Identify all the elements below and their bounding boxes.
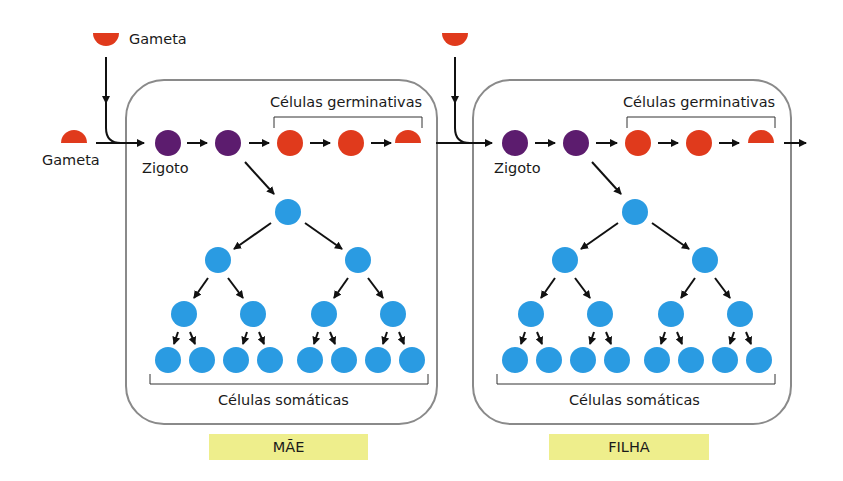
germ-cell xyxy=(338,130,364,156)
gamete-output-icon xyxy=(395,130,421,143)
gamete-output-icon xyxy=(748,130,774,143)
gamete-left-label: Gameta xyxy=(42,152,100,168)
zygote-cell xyxy=(155,130,181,156)
daughter-somatic-tree xyxy=(497,162,775,384)
germ-cells-label-daughter: Células germinativas xyxy=(623,94,775,110)
mother-somatic-tree xyxy=(150,162,428,384)
zygote-cell xyxy=(502,130,528,156)
germ-cells-label-mother: Células germinativas xyxy=(270,94,422,110)
daughter-tag: FILHA xyxy=(549,434,709,460)
somatic-cells-label-mother: Células somáticas xyxy=(218,392,349,408)
gamete-top-label: Gameta xyxy=(129,31,187,47)
diagram-graphics xyxy=(0,0,843,481)
germline-diagram: Gameta Gameta Zigoto Células germinativa… xyxy=(0,0,843,481)
zygote-label-mother: Zigoto xyxy=(142,160,189,176)
zygote-label-daughter: Zigoto xyxy=(494,160,541,176)
mother-tag: MÃE xyxy=(209,434,368,460)
gamete-top-icon xyxy=(442,33,468,46)
germ-cell xyxy=(625,130,651,156)
somatic-cells-label-daughter: Células somáticas xyxy=(569,392,700,408)
gamete-top-icon xyxy=(93,33,119,46)
germ-cell xyxy=(686,130,712,156)
gamete-left-icon xyxy=(61,130,87,143)
germ-cell xyxy=(277,130,303,156)
